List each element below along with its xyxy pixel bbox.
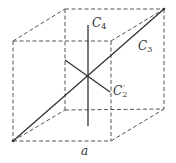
c3-label: C3 [138,40,152,54]
cube-edge [111,9,164,41]
vertex-dot [163,8,166,11]
cube-edge [13,9,65,41]
vertex-dot [12,140,15,143]
cube-edge [65,109,164,110]
cube-edge [13,110,65,141]
c2prime-label: C2′ [113,84,125,99]
cube-drawing [0,0,176,163]
edge-length-label: a [81,145,88,157]
cube-symmetry-diagram: C4 C3 C2′ a [0,0,176,163]
symmetry-axes [13,9,164,141]
cube-edge [111,109,164,141]
c4-label: C4 [92,17,106,31]
